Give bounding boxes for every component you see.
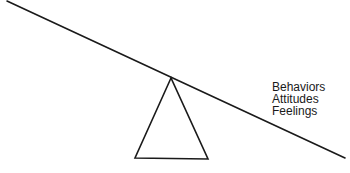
beam-labels: Behaviors Attitudes Feelings [272, 81, 325, 117]
label-feelings: Feelings [272, 105, 325, 117]
